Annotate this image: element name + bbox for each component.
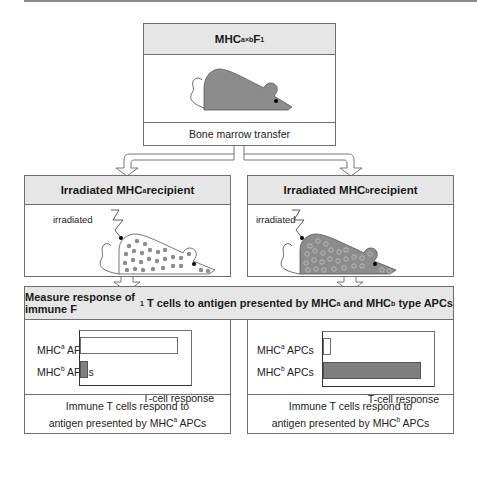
mhc-a-recipient-box: Irradiated MHCa recipient irradiated — [24, 175, 231, 277]
mhc-b-recipient-box: Irradiated MHCb recipient irradiated — [247, 175, 454, 277]
row-label-mhc-b-apcs: MHCb APCs — [257, 365, 314, 378]
mhc-b-result-panel: MHCa APCs MHCb APCs T-cell response Immu… — [247, 319, 454, 434]
bar-chart-frame — [322, 331, 435, 387]
bar-mhc-b — [80, 361, 88, 378]
mhc-b-recipient-title: Irradiated MHCb recipient — [248, 176, 453, 205]
measure-response-title: Measure response of immune F1 T cells to… — [24, 286, 454, 320]
conclusion-mhc-a: Immune T cells respond to antigen presen… — [25, 394, 230, 433]
bar-mhc-b — [323, 362, 421, 379]
row-label-mhc-a-apcs: MHCa APCs — [257, 343, 314, 356]
mouse-grey-dotted-icon — [258, 208, 408, 278]
conclusion-mhc-b: Immune T cells respond to antigen presen… — [248, 394, 453, 433]
bar-chart-frame — [79, 330, 192, 386]
mhc-a-result-panel: MHCa APCs MHCb APCs T-cell response Immu… — [24, 319, 231, 434]
mhc-a-recipient-title: Irradiated MHCa recipient — [25, 176, 230, 205]
mouse-white-dotted-icon — [77, 208, 227, 278]
bar-mhc-a — [323, 338, 331, 355]
bar-mhc-a — [80, 337, 178, 354]
